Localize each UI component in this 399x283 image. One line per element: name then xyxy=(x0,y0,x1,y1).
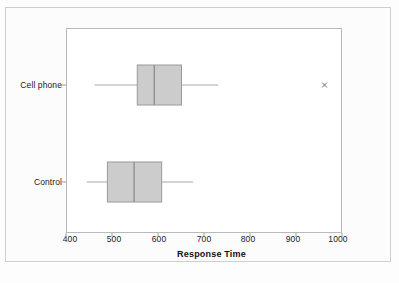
x-tick-label-1000: 1000 xyxy=(320,234,356,244)
x-tick-label-900: 900 xyxy=(275,234,311,244)
x-tick-label-500: 500 xyxy=(96,234,132,244)
x-tick-label-600: 600 xyxy=(141,234,177,244)
y-axis-label-control: Control xyxy=(0,177,62,187)
plot-panel xyxy=(66,28,342,233)
x-tick-label-400: 400 xyxy=(52,234,88,244)
boxplot-screenshot: Cell phone Control 400 500 600 700 800 9… xyxy=(0,0,399,283)
x-axis-title-text: Response Time xyxy=(177,249,246,259)
x-axis-title: Response Time xyxy=(0,249,399,259)
y-axis-label-cell-phone: Cell phone xyxy=(0,80,62,90)
x-tick-label-800: 800 xyxy=(230,234,266,244)
x-tick-label-700: 700 xyxy=(186,234,222,244)
